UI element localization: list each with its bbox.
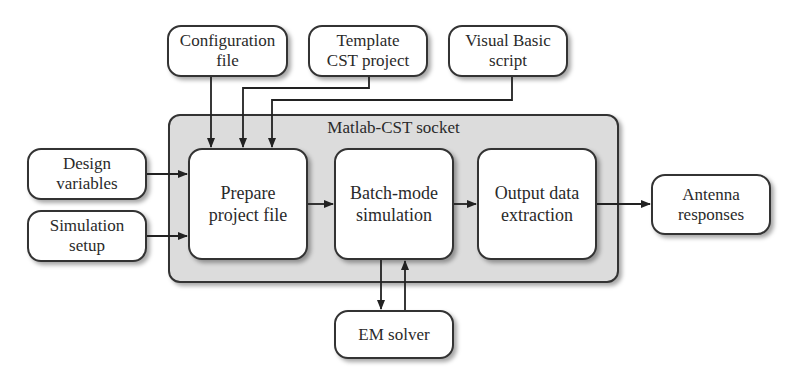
connector-arrows (0, 0, 796, 386)
